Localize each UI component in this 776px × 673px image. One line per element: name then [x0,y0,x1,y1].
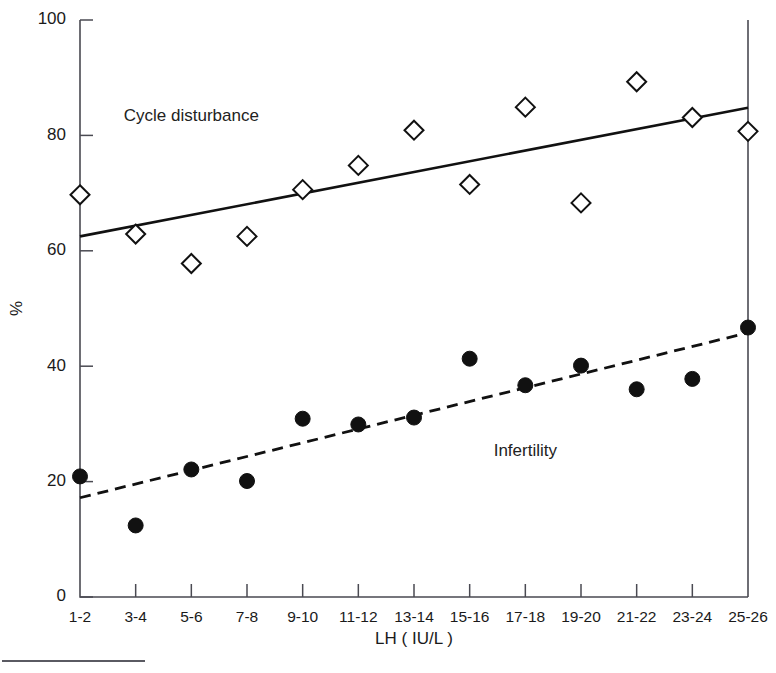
y-tick-label: 20 [47,471,66,490]
x-tick-label: 9-10 [287,608,318,625]
annotation-infertility: Infertility [494,441,558,460]
y-tick-label: 0 [57,586,66,605]
y-tick-label: 60 [47,240,66,259]
data-point-cycle-disturbance [238,227,257,246]
data-point-cycle-disturbance [349,156,368,175]
data-point-infertility [685,371,700,386]
data-point-infertility [128,518,143,533]
data-point-cycle-disturbance [627,72,646,91]
data-point-infertility [518,378,533,393]
data-point-cycle-disturbance [71,185,90,204]
data-point-infertility [184,462,199,477]
data-point-infertility [351,417,366,432]
x-tick-label: 7-8 [236,608,258,625]
y-axis-title: % [7,301,26,316]
data-point-cycle-disturbance [182,254,201,273]
data-point-infertility [73,469,88,484]
data-point-infertility [295,411,310,426]
x-tick-label: 1-2 [69,608,91,625]
data-point-cycle-disturbance [572,193,591,212]
data-point-cycle-disturbance [739,122,758,141]
chart-figure: 020406080100 1-23-45-67-89-1011-1213-141… [0,0,776,673]
data-point-cycle-disturbance [683,108,702,127]
x-tick-label: 15-16 [450,608,490,625]
x-tick-label: 21-22 [617,608,657,625]
scatter-plot: 020406080100 1-23-45-67-89-1011-1213-141… [0,0,776,673]
data-point-cycle-disturbance [293,180,312,199]
x-axis-title: LH ( IU/L ) [375,629,453,648]
x-tick-label: 23-24 [673,608,713,625]
x-tick-label: 25-26 [728,608,768,625]
y-tick-label: 80 [47,125,66,144]
x-tick-label: 11-12 [339,608,378,625]
data-point-infertility [462,351,477,366]
x-tick-label: 3-4 [124,608,147,625]
data-point-infertility [629,382,644,397]
annotation-cycle-disturbance: Cycle disturbance [124,106,259,125]
y-tick-label: 100 [38,9,66,28]
x-tick-label: 19-20 [561,608,601,625]
data-point-cycle-disturbance [460,175,479,194]
x-tick-label: 5-6 [180,608,202,625]
data-point-cycle-disturbance [516,98,535,117]
data-point-infertility [741,320,756,335]
data-points [71,72,758,533]
data-point-infertility [240,474,255,489]
y-axis-ticks: 020406080100 [38,9,93,605]
x-tick-label: 13-14 [394,608,434,625]
data-point-infertility [574,358,589,373]
x-tick-label: 17-18 [506,608,546,625]
data-point-infertility [407,410,422,425]
data-point-cycle-disturbance [405,121,424,140]
y-tick-label: 40 [47,356,66,375]
series-annotations: Cycle disturbanceInfertility [124,106,558,460]
x-axis-ticks: 1-23-45-67-89-1011-1213-1415-1617-1819-2… [69,584,768,625]
trend-lines [80,108,748,498]
